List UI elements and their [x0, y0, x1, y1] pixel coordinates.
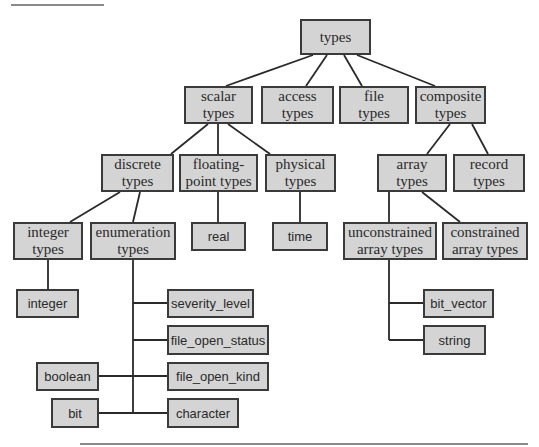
node-label: constrained array types [450, 224, 519, 258]
bottom-rule [80, 443, 528, 445]
node-label: bit [68, 406, 82, 421]
node-label: array types [396, 156, 428, 190]
node-enumeration: enumeration types [90, 222, 176, 260]
top-rule [11, 4, 104, 6]
connector-line [171, 124, 208, 154]
node-label: severity_level [171, 296, 250, 311]
node-file: file types [339, 86, 409, 124]
node-character: character [167, 398, 239, 428]
node-time: time [272, 222, 328, 251]
node-label: access types [278, 88, 316, 122]
node-constrained: constrained array types [442, 222, 528, 260]
node-label: real [208, 229, 230, 244]
node-floating: floating- point types [179, 154, 258, 192]
node-discrete: discrete types [101, 154, 174, 192]
node-file-open-status: file_open_status [167, 325, 269, 355]
node-label: types [320, 29, 352, 46]
node-label: scalar types [201, 88, 236, 122]
node-integer-types: integer types [13, 222, 83, 260]
connector-line [427, 124, 450, 154]
node-label: file_open_status [171, 333, 266, 348]
node-label: floating- point types [185, 156, 251, 190]
node-string: string [423, 325, 486, 355]
node-label: physical types [276, 156, 326, 190]
node-label: discrete types [114, 156, 161, 190]
node-integer: integer [16, 289, 79, 318]
node-label: integer [28, 296, 68, 311]
node-label: boolean [44, 369, 90, 384]
node-label: integer types [27, 224, 69, 258]
connector-line [70, 192, 120, 222]
node-label: record types [470, 156, 508, 190]
node-label: bit_vector [430, 296, 486, 311]
connector-line [133, 192, 140, 222]
node-label: character [176, 406, 230, 421]
node-access: access types [261, 86, 334, 124]
node-unconstrained: unconstrained array types [343, 222, 437, 260]
connector-line [422, 192, 460, 222]
connector-line [357, 55, 435, 86]
node-real: real [191, 222, 246, 251]
node-label: composite types [420, 88, 482, 122]
node-label: file_open_kind [176, 369, 260, 384]
node-label: time [288, 229, 313, 244]
connector-line [306, 55, 327, 86]
node-bit: bit [51, 398, 99, 428]
node-record: record types [453, 154, 525, 192]
node-types: types [300, 19, 371, 55]
node-scalar: scalar types [184, 86, 253, 124]
node-label: file types [358, 88, 390, 122]
connector-line [228, 124, 270, 154]
node-label: enumeration types [96, 224, 171, 258]
node-bit-vector: bit_vector [423, 289, 494, 318]
connector-line [226, 55, 313, 86]
node-boolean: boolean [36, 362, 99, 391]
node-label: string [439, 333, 471, 348]
type-hierarchy-diagram: typesscalar typesaccess typesfile typesc… [0, 0, 539, 447]
node-composite: composite types [415, 86, 486, 124]
connector-line [344, 55, 362, 86]
node-physical: physical types [265, 154, 336, 192]
node-file-open-kind: file_open_kind [167, 362, 269, 391]
connector-line [472, 124, 488, 154]
node-label: unconstrained array types [348, 224, 432, 258]
node-severity-level: severity_level [167, 289, 254, 318]
node-array: array types [377, 154, 447, 192]
